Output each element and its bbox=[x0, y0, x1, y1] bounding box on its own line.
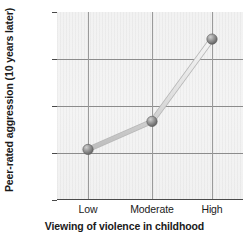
series-line-outline bbox=[88, 39, 212, 149]
data-point-high bbox=[207, 34, 217, 44]
x-tick-label-moderate: Moderate bbox=[130, 203, 174, 215]
tick-mark-0 bbox=[52, 200, 57, 201]
data-point-marker-group bbox=[83, 34, 217, 155]
plot-area bbox=[57, 12, 243, 200]
x-tick-label-high: High bbox=[201, 203, 222, 215]
x-tick-label-low: Low bbox=[79, 203, 98, 215]
x-axis-title: Viewing of violence in childhood bbox=[0, 220, 249, 232]
data-point-moderate bbox=[147, 116, 157, 126]
series-line-fill bbox=[88, 39, 212, 149]
y-axis-title-text: Peer-rated aggression (10 years later) bbox=[3, 8, 15, 192]
data-series-line bbox=[57, 12, 243, 199]
chart-figure: Peer-rated aggression (10 years later) 2… bbox=[0, 0, 249, 243]
data-point-low bbox=[83, 144, 93, 154]
y-axis-title: Peer-rated aggression (10 years later) bbox=[0, 0, 18, 200]
